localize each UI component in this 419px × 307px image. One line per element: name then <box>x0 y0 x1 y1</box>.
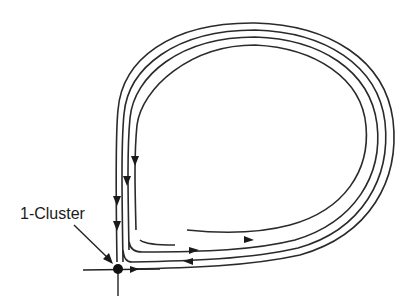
arrow-down-icon <box>113 221 121 231</box>
trajectory-inner <box>135 45 366 232</box>
arrow-right-icon <box>244 236 254 243</box>
arrow-right-icon <box>189 247 199 254</box>
saddle-point-label: 1-Cluster <box>20 205 86 222</box>
phase-portrait-diagram: 1-Cluster <box>0 0 419 307</box>
arrow-down-icon <box>123 176 131 186</box>
trajectory-3 <box>128 37 378 252</box>
saddle-point-marker <box>113 264 123 274</box>
trajectory-inner-tail <box>140 240 175 245</box>
arrow-left-icon <box>183 258 193 265</box>
arrow-down-icon <box>131 156 139 166</box>
trajectory-outer <box>116 23 394 269</box>
arrow-right-icon <box>130 266 139 273</box>
arrow-down-icon <box>113 196 121 206</box>
label-pointer-line <box>74 225 110 260</box>
